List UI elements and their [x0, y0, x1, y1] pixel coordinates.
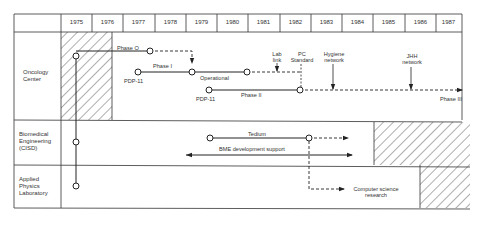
- row-label-line: Physics: [19, 183, 48, 190]
- node-1980: [244, 69, 250, 75]
- node-phase0-end: [147, 48, 153, 54]
- label-bme-support: BME development support: [219, 146, 285, 152]
- row-label-line: Engineering: [19, 138, 51, 145]
- label-lab-link: Lab link: [268, 51, 286, 64]
- label-phase-1: Phase I: [153, 63, 172, 69]
- row-label-applied-physics: Applied Physics Laboratory: [19, 176, 48, 197]
- row-label-line: Center: [23, 76, 48, 83]
- node-pdp11-b: [206, 87, 212, 93]
- row-label-biomedical: Biomedical Engineering (CISD): [19, 131, 51, 152]
- label-cs-research: Computer science research: [350, 186, 402, 199]
- node-phase2-end: [297, 87, 303, 93]
- label-pc-standard: PC Standard: [288, 51, 316, 64]
- row-label-line: Laboratory: [19, 190, 48, 197]
- year-1978: 1978: [155, 19, 186, 25]
- label-hygiene-network: Hygiene network: [320, 51, 348, 64]
- hatched-region-1975: [61, 32, 112, 120]
- row-label-line: Biomedical: [19, 131, 51, 138]
- year-1982: 1982: [280, 19, 311, 25]
- node-1975-apl: [73, 183, 79, 189]
- node-1975-biomed: [73, 139, 79, 145]
- year-1981: 1981: [248, 19, 279, 25]
- year-1977: 1977: [123, 19, 154, 25]
- year-1986: 1986: [405, 19, 436, 25]
- label-jhh-network: JHH network: [398, 53, 426, 66]
- row-label-oncology: Oncology Center: [23, 69, 48, 83]
- label-pdp11-b: PDP-11: [196, 96, 215, 102]
- label-tedium: Tedium: [248, 131, 266, 137]
- label-pdp11-a: PDP-11: [124, 78, 143, 84]
- label-phase-0: Phase O: [117, 45, 139, 51]
- year-1979: 1979: [186, 19, 217, 25]
- label-phase-2: Phase II: [241, 92, 262, 98]
- node-1975-oncology: [73, 53, 79, 59]
- year-1987: 1987: [433, 19, 464, 25]
- node-tedium-end: [306, 135, 312, 141]
- year-1985: 1985: [373, 19, 404, 25]
- label-operational: Operational: [200, 75, 229, 81]
- year-1980: 1980: [217, 19, 248, 25]
- label-line: research: [350, 192, 402, 198]
- row-label-line: (CISD): [19, 145, 51, 152]
- timeline-diagram: [0, 0, 487, 225]
- hatched-region-biomed-end: [374, 122, 470, 165]
- label-phase-3: Phase III: [440, 96, 462, 102]
- row-label-line: Applied: [19, 176, 48, 183]
- label-line: network: [320, 57, 348, 63]
- label-line: link: [268, 57, 286, 63]
- node-operational: [189, 69, 195, 75]
- node-tedium-start: [207, 135, 213, 141]
- label-line: Standard: [288, 57, 316, 63]
- year-1983: 1983: [311, 19, 342, 25]
- year-1984: 1984: [342, 19, 373, 25]
- hatched-region-apl-end: [420, 165, 470, 208]
- node-pdp11-a: [135, 69, 141, 75]
- label-line: network: [398, 59, 426, 65]
- row-label-line: Oncology: [23, 69, 48, 76]
- year-1975: 1975: [61, 19, 92, 25]
- year-1976: 1976: [92, 19, 123, 25]
